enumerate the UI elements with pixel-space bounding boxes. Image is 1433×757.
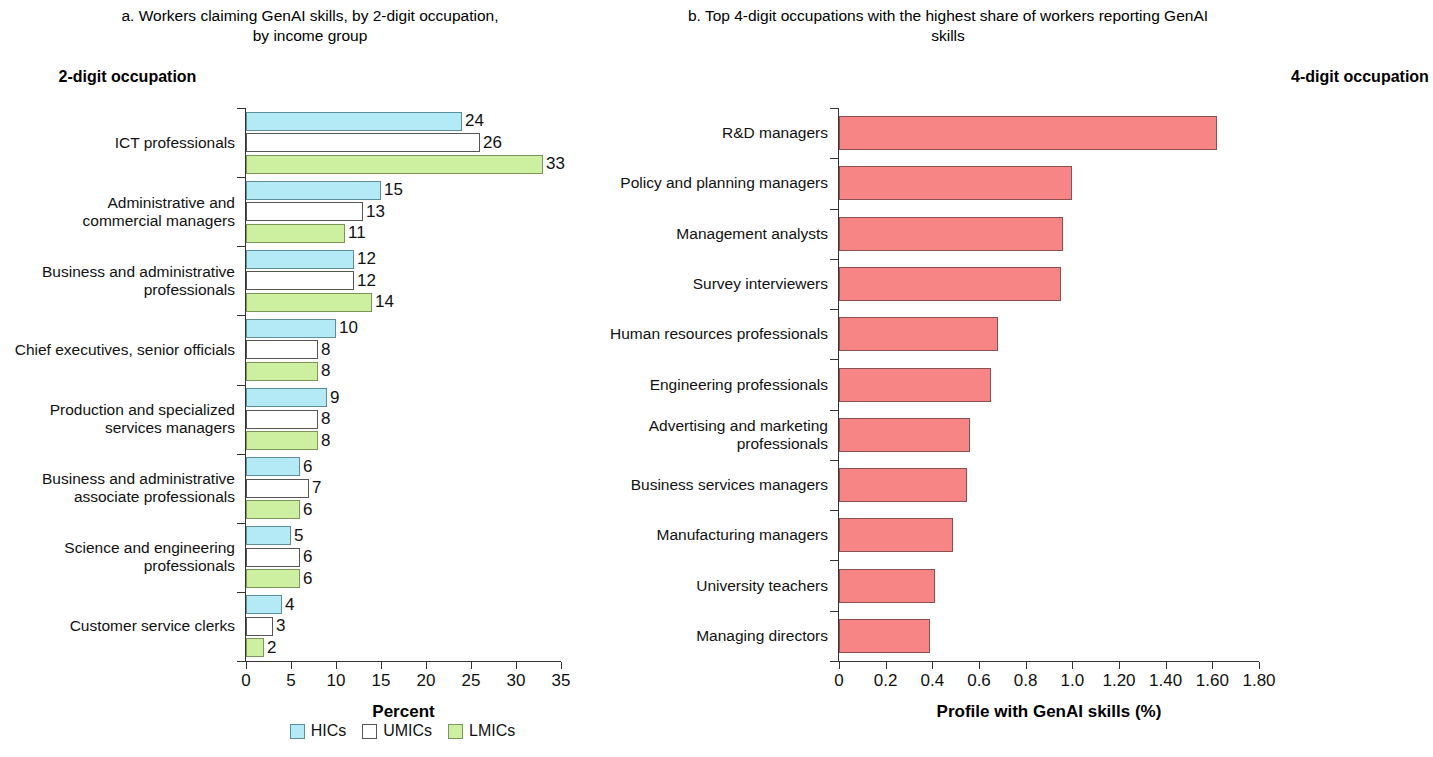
legend-item-hics[interactable]: HICs (290, 722, 347, 740)
panel-a-bar-value: 6 (303, 568, 312, 588)
x-axis-tick (1259, 662, 1260, 669)
panel-a-x-axis: Percent 05101520253035 (246, 661, 561, 662)
x-axis-tick (839, 662, 840, 669)
panel-b-plot-area: Profile with GenAI skills (%) 00.20.40.6… (838, 108, 1259, 661)
panel-a-bar-value: 6 (303, 547, 312, 567)
legend-item-label: LMICs (469, 722, 515, 740)
panel-a-bar: 26 (246, 133, 480, 152)
panel-a-bar-value: 8 (321, 361, 330, 381)
legend-swatch-icon (290, 724, 305, 739)
panel-a-category-label: ICT professionals (0, 134, 235, 152)
panel-b-category-tick (830, 158, 839, 159)
x-axis-tick (336, 662, 337, 669)
panel-b-bar (839, 518, 953, 552)
panel-b-category-tick (830, 460, 839, 461)
panel-a-category-tick (237, 454, 246, 455)
panel-b-bar (839, 217, 1063, 251)
panel-a-bar-value: 15 (384, 180, 403, 200)
x-axis-tick-label: 15 (372, 671, 391, 691)
panel-a-bar: 13 (246, 202, 363, 221)
panel-b-category-label: Manufacturing managers (498, 526, 828, 544)
panel-a-bar: 6 (246, 457, 300, 476)
panel-a-category-label: Business and administrative associate pr… (0, 470, 235, 506)
panel-a-category-tick (237, 661, 246, 662)
panel-a-bar-value: 12 (357, 249, 376, 269)
panel-a-category-label: Customer service clerks (0, 617, 235, 635)
x-axis-tick (516, 662, 517, 669)
panel-b-category-tick (830, 611, 839, 612)
x-axis-tick (471, 662, 472, 669)
panel-a-bar: 8 (246, 410, 318, 429)
legend-item-umics[interactable]: UMICs (362, 722, 432, 740)
x-axis-tick (886, 662, 887, 669)
panel-b-bar (839, 267, 1061, 301)
panel-a-axis-heading: 2-digit occupation (0, 68, 255, 86)
x-axis-tick-label: 25 (462, 671, 481, 691)
panel-b-category-tick (830, 410, 839, 411)
x-axis-tick-label: 1.80 (1242, 671, 1275, 691)
panel-a-bar: 7 (246, 479, 309, 498)
panel-a-bar-value: 9 (330, 387, 339, 407)
x-axis-tick (246, 662, 247, 669)
panel-a-category-tick (237, 108, 246, 109)
panel-b-x-axis: Profile with GenAI skills (%) 00.20.40.6… (839, 661, 1259, 662)
panel-a-bar: 6 (246, 548, 300, 567)
x-axis-tick-label: 0.2 (874, 671, 898, 691)
panel-b-category-label: Human resources professionals (498, 325, 828, 343)
panel-b-bar (839, 116, 1217, 150)
panel-a-bar: 8 (246, 431, 318, 450)
panel-a-bar-value: 24 (465, 111, 484, 131)
panel-a-bar: 33 (246, 155, 543, 174)
panel-b-bar (839, 317, 998, 351)
x-axis-tick-label: 5 (286, 671, 295, 691)
x-axis-tick (291, 662, 292, 669)
legend-swatch-icon (362, 724, 377, 739)
panel-a-category-label: Administrative and commercial managers (0, 194, 235, 230)
panel-a-bar-value: 8 (321, 430, 330, 450)
panel-b-category-label: Policy and planning managers (498, 174, 828, 192)
panel-a-bar: 2 (246, 638, 264, 657)
panel-b-category-tick (830, 359, 839, 360)
x-axis-tick-label: 0.4 (921, 671, 945, 691)
x-axis-tick (1119, 662, 1120, 669)
panel-b-category-label: Managing directors (498, 627, 828, 645)
x-axis-tick-label: 0.8 (1014, 671, 1038, 691)
panel-a-bar-value: 5 (294, 525, 303, 545)
x-axis-tick-label: 35 (552, 671, 571, 691)
panel-b-bar (839, 418, 970, 452)
panel-a-bar-value: 11 (348, 223, 366, 243)
x-axis-tick-label: 0 (834, 671, 843, 691)
panel-a-bar: 12 (246, 271, 354, 290)
panel-a-bar-value: 7 (312, 478, 321, 498)
panel-b-bar (839, 468, 967, 502)
x-axis-tick (1166, 662, 1167, 669)
panel-a-bar-value: 33 (546, 154, 565, 174)
panel-b-bar (839, 166, 1072, 200)
panel-a-category-tick (237, 523, 246, 524)
panel-a-x-axis-title: Percent (186, 702, 621, 722)
panel-a-bar: 10 (246, 319, 336, 338)
x-axis-tick (426, 662, 427, 669)
x-axis-tick (381, 662, 382, 669)
panel-a-bar: 8 (246, 362, 318, 381)
x-axis-tick-label: 1.20 (1102, 671, 1135, 691)
panel-a-bar: 6 (246, 500, 300, 519)
legend-item-label: UMICs (383, 722, 432, 740)
x-axis-tick-label: 30 (507, 671, 526, 691)
legend-item-lmics[interactable]: LMICs (448, 722, 515, 740)
panel-a-bar: 5 (246, 526, 291, 545)
x-axis-tick (1212, 662, 1213, 669)
x-axis-tick (1072, 662, 1073, 669)
panel-a-bar-value: 6 (303, 499, 312, 519)
panel-a-category-label: Business and administrative professional… (0, 263, 235, 299)
panel-a-bar: 15 (246, 181, 381, 200)
panel-a-category-tick (237, 592, 246, 593)
panel-b-x-axis-title: Profile with GenAI skills (%) (779, 702, 1319, 722)
x-axis-tick (979, 662, 980, 669)
panel-a-bar-value: 13 (366, 201, 385, 221)
panel-b-title: b. Top 4-digit occupations with the high… (620, 6, 1276, 46)
panel-b-category-label: Engineering professionals (498, 376, 828, 394)
panel-b-bar (839, 569, 935, 603)
x-axis-tick-label: 10 (327, 671, 346, 691)
panel-b-category-tick (830, 510, 839, 511)
